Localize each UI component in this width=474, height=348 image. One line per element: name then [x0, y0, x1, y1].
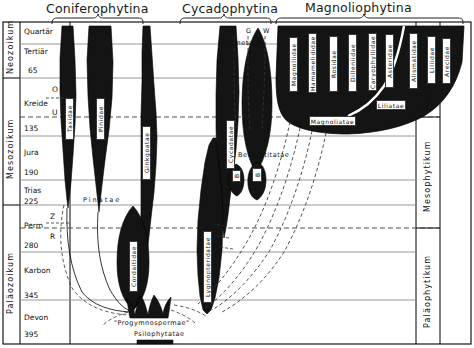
taxon-label-pinatae: Pinatae	[83, 196, 121, 204]
period-label-karbon: Karbon	[24, 266, 51, 275]
gnetatae-marker-w: W	[263, 27, 269, 35]
boundary-age-280: 280	[24, 241, 38, 250]
period-label-jura: Jura	[24, 148, 39, 157]
era-label-neozoikum: Neozoikum	[6, 30, 15, 74]
taxon-label-gnetatae: Gnetatae	[231, 39, 265, 47]
header-coniferophytina: Coniferophytina	[46, 1, 149, 16]
boundary-age-225: 225	[24, 197, 38, 206]
taxon-label-bennettitatae: Bennettitatae	[238, 151, 289, 159]
taxon-label-progymnospermae: "Progymnospermae"	[114, 319, 190, 327]
zone-label-mesophytikum: Mesophytikum	[423, 138, 432, 212]
gnetatae-marker-g: G	[246, 27, 251, 35]
taxon-label-magnoliidae: Magnoliidae	[289, 37, 298, 92]
period-label-kreide: Kreide	[24, 99, 48, 108]
gnetatae-marker-e: E	[232, 27, 236, 35]
boundary-age-395: 395	[24, 330, 38, 339]
period-label-devon: Devon	[24, 313, 48, 322]
taxon-label-hamamelididae: Hamamelididae	[308, 33, 317, 93]
taxon-label-pinidae: Pinidae	[96, 98, 105, 140]
taxon-label-liliidae: Liliidae	[427, 36, 436, 84]
taxon-label-taxidae: Taxidae	[65, 98, 74, 140]
taxon-label-bennettitatae-pod-a: B	[232, 170, 241, 182]
taxon-shape-psilophytatae	[137, 340, 173, 344]
era-label-palaeozoikum: Paläozoikum	[6, 232, 15, 314]
diagram-root: Coniferophytina Cycadophytina Magnolioph…	[0, 0, 474, 348]
taxon-label-psilophytatae: Psilophytatae	[134, 330, 184, 338]
taxon-label-caryophyllidae: Caryophyllidae	[368, 33, 377, 91]
taxon-label-lyginopteridatae: Lyginopteridatae	[203, 231, 212, 303]
zone-label-palaeophytikum: Paläophytikum	[423, 250, 432, 328]
boundary-age-190: 190	[24, 168, 38, 177]
taxon-label-cordaitidae: Cordaitidae	[129, 241, 138, 292]
taxon-label-liliatae: Liliatae	[376, 100, 406, 110]
taxon-label-ginkgoatae: Ginkgoatae	[142, 126, 151, 180]
header-cycadophytina: Cycadophytina	[182, 1, 278, 16]
header-magnoliophytina: Magnoliophytina	[305, 0, 412, 15]
taxon-label-magnoliatae: Magnoliatae	[309, 116, 356, 126]
era-label-mesozoikum: Mesozoikum	[6, 103, 15, 179]
period-label-tertiaer: Tertiär	[24, 47, 48, 56]
taxon-label-alismatidae: Alismatidae	[409, 33, 418, 89]
taxon-label-bennettitatae-pod-b: B	[252, 168, 262, 182]
boundary-age-345: 345	[24, 291, 38, 300]
taxon-label-arecidae: Arecidae	[442, 38, 451, 84]
taxon-label-rosidae: Rosidae	[329, 36, 338, 92]
taxon-label-dilleniidae: Dilleniidae	[348, 34, 357, 92]
period-label-perm: Perm	[24, 221, 43, 230]
perm-subdivision-rule	[46, 205, 70, 253]
boundary-age-135: 135	[24, 124, 38, 133]
boundary-age-65: 65	[28, 66, 38, 75]
taxon-label-asteridae: Asteridae	[385, 34, 394, 88]
period-label-quartaer: Quartär	[24, 27, 53, 36]
taxon-label-cycadatae: Cycadatae	[226, 120, 235, 169]
period-label-trias: Trias	[24, 186, 41, 195]
